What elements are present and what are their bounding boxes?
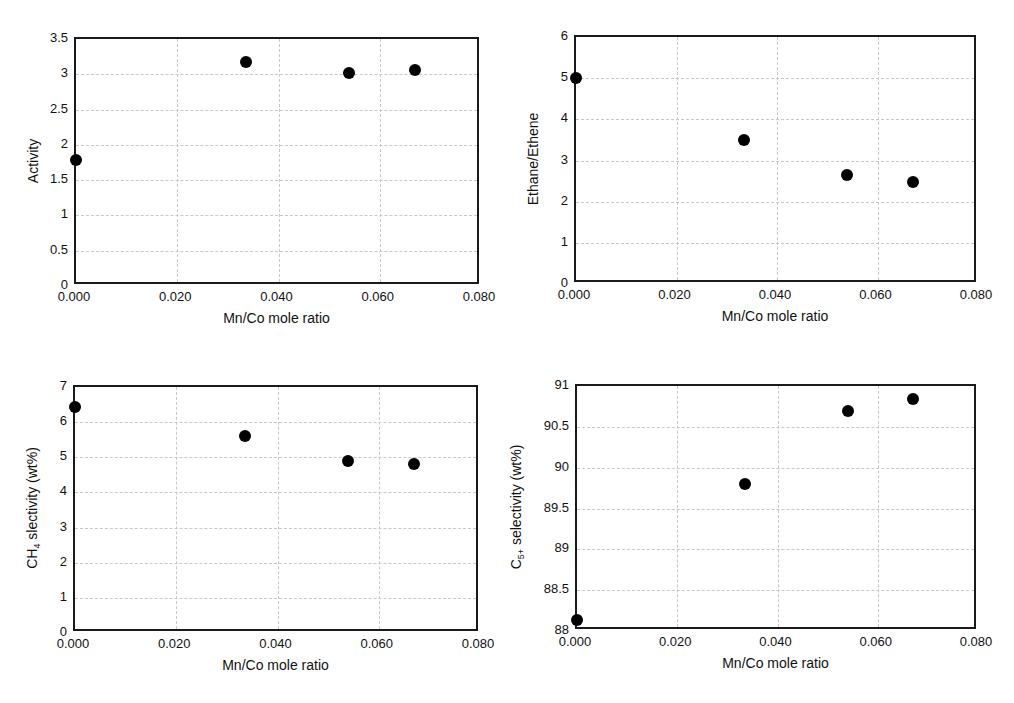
gridline-horizontal [576,161,974,162]
data-point-marker [239,430,251,442]
y-axis-label-subscript: 5+ [516,548,526,558]
y-tick-label: 90 [529,458,569,473]
gridline-horizontal [76,110,477,111]
gridline-vertical [279,39,280,282]
data-point-marker [738,134,750,146]
gridline-vertical [278,387,279,629]
gridline-horizontal [576,202,974,203]
gridline-vertical [380,39,381,282]
plot-area [73,385,478,631]
y-tick-label: 0.5 [28,241,68,256]
y-tick-label: 2.5 [28,100,68,115]
y-tick-label: 6 [528,28,568,43]
y-tick-label: 2 [528,192,568,207]
data-point-marker [240,56,252,68]
y-tick-label: 2 [28,135,68,150]
gridline-horizontal [76,145,477,146]
y-tick-label: 1.5 [28,171,68,186]
x-axis-label: Mn/Co mole ratio [722,655,829,671]
gridline-vertical [176,387,177,629]
gridline-vertical [878,37,879,280]
x-tick-label: 0.020 [645,634,705,649]
x-tick-label: 0.000 [43,636,103,651]
gridline-horizontal [577,549,974,550]
gridline-vertical [677,37,678,280]
data-point-marker [343,67,355,79]
gridline-horizontal [75,422,476,423]
y-tick-label: 4 [27,483,67,498]
gridline-vertical [778,386,779,627]
y-tick-label: 91 [529,377,569,392]
gridline-horizontal [75,563,476,564]
plot-area [575,384,976,629]
y-tick-label: 1 [528,233,568,248]
x-tick-label: 0.020 [144,636,204,651]
gridline-horizontal [577,427,974,428]
x-tick-label: 0.020 [145,289,205,304]
y-tick-label: 4 [528,110,568,125]
x-tick-label: 0.020 [645,287,705,302]
x-axis-label: Mn/Co mole ratio [722,308,829,324]
y-tick-label: 5 [27,448,67,463]
x-tick-label: 0.080 [449,289,509,304]
y-axis-label-subscript: 4 [32,544,42,549]
gridline-horizontal [76,180,477,181]
x-tick-label: 0.000 [44,289,104,304]
gridline-horizontal [577,590,974,591]
x-tick-label: 0.080 [946,287,1006,302]
gridline-vertical [677,386,678,627]
gridline-horizontal [576,119,974,120]
gridline-horizontal [76,251,477,252]
x-tick-label: 0.040 [246,636,306,651]
x-tick-label: 0.060 [348,289,408,304]
gridline-horizontal [577,509,974,510]
x-tick-label: 0.000 [544,287,604,302]
data-point-marker [739,478,751,490]
gridline-horizontal [75,598,476,599]
y-axis-label: CH4 slectivity (wt%) [24,447,43,569]
x-tick-label: 0.080 [946,634,1006,649]
data-point-marker [571,614,583,626]
data-point-marker [408,458,420,470]
y-tick-label: 88.5 [529,581,569,596]
y-axis-label-rest: selectivity (wt%) [508,444,524,548]
gridline-vertical [379,387,380,629]
x-tick-label: 0.040 [745,287,805,302]
gridline-horizontal [576,243,974,244]
data-point-marker [842,405,854,417]
gridline-horizontal [75,492,476,493]
y-tick-label: 1 [27,588,67,603]
x-axis-label: Mn/Co mole ratio [223,310,330,326]
y-tick-label: 3 [28,65,68,80]
data-point-marker [907,393,919,405]
x-tick-label: 0.060 [846,287,906,302]
plot-area [574,35,976,282]
x-tick-label: 0.080 [448,636,508,651]
gridline-horizontal [576,78,974,79]
y-tick-label: 3.5 [28,30,68,45]
gridline-horizontal [76,215,477,216]
y-tick-label: 5 [528,69,568,84]
data-point-marker [70,154,82,166]
gridline-horizontal [75,528,476,529]
y-tick-label: 3 [528,151,568,166]
x-tick-label: 0.060 [846,634,906,649]
y-tick-label: 6 [27,413,67,428]
gridline-vertical [777,37,778,280]
x-tick-label: 0.040 [746,634,806,649]
y-tick-label: 89.5 [529,499,569,514]
y-axis-label-main: C [508,559,524,569]
y-axis-label: C5+ selectivity (wt%) [508,444,527,569]
data-point-marker [409,64,421,76]
data-point-marker [907,176,919,188]
y-tick-label: 89 [529,540,569,555]
y-tick-label: 3 [27,518,67,533]
plot-area [74,37,479,284]
data-point-marker [69,401,81,413]
gridline-horizontal [577,468,974,469]
gridline-vertical [878,386,879,627]
data-point-marker [570,72,582,84]
gridline-vertical [177,39,178,282]
y-tick-label: 1 [28,206,68,221]
x-tick-label: 0.060 [347,636,407,651]
